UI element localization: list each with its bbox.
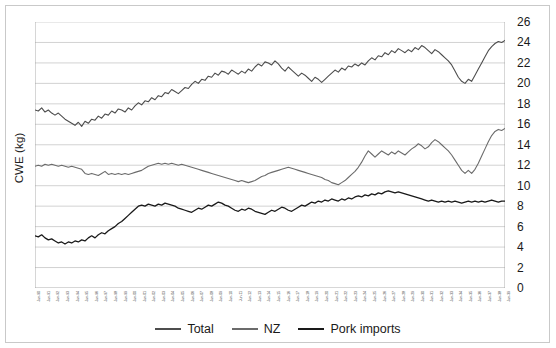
legend-label-nz: NZ (264, 322, 281, 336)
x-axis-tick-label: Jun-08 (210, 291, 214, 301)
x-axis-tick-label: Jun-37 (488, 291, 492, 301)
x-axis-tick-label: Jun-39 (507, 291, 511, 301)
x-axis-tick-label: Jun-18 (306, 291, 310, 301)
x-axis-tick-label: Jun-97 (104, 291, 108, 301)
x-axis-tick-label: Jun-07 (200, 291, 204, 301)
x-axis-tick-label: Jun-99 (124, 291, 128, 301)
gridlines (35, 22, 505, 268)
y-axis-tick-label: 6 (517, 220, 524, 234)
x-axis-tick-label: Jun-26 (383, 291, 387, 301)
legend-label-total: Total (187, 322, 213, 336)
data-series-group (35, 40, 505, 244)
x-axis-tick-label: Jun-23 (354, 291, 358, 301)
x-axis-tick-label: Jun-36 (478, 291, 482, 301)
y-axis-tick-label: 12 (517, 158, 530, 172)
y-axis-tick-label: 20 (517, 76, 530, 90)
chart-figure: CWE (kg) 02468101214161820222426 Jun-90J… (0, 0, 556, 348)
x-axis-tick-label: Jun-32 (440, 291, 444, 301)
legend-swatch-nz (232, 328, 258, 330)
x-axis-tick-label: Jun-03 (162, 291, 166, 301)
legend-item-total[interactable]: Total (155, 322, 213, 336)
y-axis-tick-label: 0 (517, 281, 524, 295)
y-axis-tick-label: 18 (517, 97, 530, 111)
x-axis-tick-label: Jun-05 (181, 291, 185, 301)
x-axis-tick-label: Jun-31 (430, 291, 434, 301)
x-axis-tick-label: Jun-01 (143, 291, 147, 301)
x-axis-tick-labels: Jun-90Jun-91Jun-92Jun-93Jun-94Jun-95Jun-… (35, 291, 505, 315)
y-axis-tick-label: 16 (517, 117, 530, 131)
x-axis-tick-label: Jun-13 (258, 291, 262, 301)
x-axis-tick-label: Jun-04 (171, 291, 175, 301)
x-axis-tick-label: Jun-30 (421, 291, 425, 301)
legend-swatch-total (155, 328, 181, 330)
y-axis-tick-label: 26 (517, 15, 530, 29)
series-line-pork-imports (35, 191, 505, 244)
x-axis-tick-label: Jun-15 (277, 291, 281, 301)
x-axis-tick-label: Jun-95 (85, 291, 89, 301)
y-axis-title: CWE (kg) (8, 108, 30, 208)
y-axis-title-text: CWE (kg) (13, 133, 25, 184)
x-axis-tick-label: Jun-93 (66, 291, 70, 301)
x-axis-tick-label: Jun-96 (95, 291, 99, 301)
x-axis-tick-label: Jun-29 (411, 291, 415, 301)
x-axis-tick-label: Jun-24 (363, 291, 367, 301)
y-axis-tick-label: 2 (517, 261, 524, 275)
x-axis-tick-label: Jun-12 (248, 291, 252, 301)
y-axis-tick-label: 4 (517, 240, 524, 254)
x-axis-tick-label: Jun-33 (450, 291, 454, 301)
x-axis-tick-label: Jun-09 (219, 291, 223, 301)
x-axis-tick-label: Jun-90 (37, 291, 41, 301)
legend-item-nz[interactable]: NZ (232, 322, 281, 336)
x-axis-tick-label: Jun-21 (335, 291, 339, 301)
x-axis-tick-label: Jun-02 (152, 291, 156, 301)
y-axis-tick-label: 14 (517, 138, 530, 152)
x-axis-tick-label: Jun-14 (267, 291, 271, 301)
x-axis-tick-label: Jun-27 (392, 291, 396, 301)
legend-item-pork-imports[interactable]: Pork imports (298, 322, 400, 336)
y-axis-tick-labels: 02468101214161820222426 (509, 22, 549, 288)
x-axis-tick-label: Jun-91 (47, 291, 51, 301)
x-axis-tick-label: Jun-00 (133, 291, 137, 301)
x-axis-tick-label: Jun-92 (56, 291, 60, 301)
series-line-nz (35, 128, 505, 184)
x-axis-tick-label: Jun-35 (469, 291, 473, 301)
x-axis-tick-label: Jun-06 (191, 291, 195, 301)
legend-swatch-pork-imports (298, 328, 324, 330)
x-axis-tick-label: Jun-22 (344, 291, 348, 301)
plot-svg (35, 22, 505, 288)
x-axis-tick-label: Jun-38 (498, 291, 502, 301)
plot-area (35, 22, 505, 288)
y-axis-tick-label: 22 (517, 56, 530, 70)
x-axis-tick-label: Jun-17 (296, 291, 300, 301)
y-axis-tick-label: 8 (517, 199, 524, 213)
x-axis-tick-label: Jun-16 (287, 291, 291, 301)
x-axis-tick-label: Jun-28 (402, 291, 406, 301)
legend-label-pork-imports: Pork imports (330, 322, 400, 336)
x-axis-tick-label: Jun-10 (229, 291, 233, 301)
y-axis-tick-label: 24 (517, 35, 530, 49)
x-axis-tick-label: Jun-98 (114, 291, 118, 301)
x-axis-tick-label: Jun-34 (459, 291, 463, 301)
x-axis-tick-label: Jun-19 (315, 291, 319, 301)
x-axis-tick-label: Jun-11 (239, 291, 243, 301)
chart-legend: Total NZ Pork imports (0, 318, 556, 340)
x-axis-tick-label: Jun-25 (373, 291, 377, 301)
x-axis-tick-label: Jun-20 (325, 291, 329, 301)
axis-lines (35, 22, 505, 288)
x-axis-tick-label: Jun-94 (76, 291, 80, 301)
y-axis-tick-label: 10 (517, 179, 530, 193)
